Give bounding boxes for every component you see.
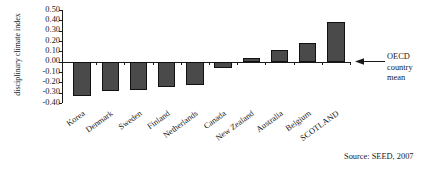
y-tick-label: -0.10 <box>26 68 60 76</box>
y-tick-mark <box>59 20 62 21</box>
x-tick-mark <box>96 62 97 65</box>
bar <box>271 50 288 61</box>
source-note: Source: SEED, 2007 <box>344 152 414 161</box>
y-axis-title: disciplinary climate index <box>13 5 22 105</box>
y-tick-label: -0.40 <box>26 99 60 107</box>
x-tick-mark <box>322 62 323 65</box>
y-tick-mark <box>59 103 62 104</box>
y-tick-mark <box>59 51 62 52</box>
plot-area <box>62 10 350 103</box>
x-tick-mark <box>294 62 295 65</box>
x-tick-mark <box>265 62 266 65</box>
bar <box>73 62 90 96</box>
y-tick-mark <box>59 93 62 94</box>
x-tick-mark <box>237 62 238 65</box>
y-tick-mark <box>59 62 62 63</box>
y-tick-label: 0.10 <box>26 47 60 55</box>
bar <box>102 62 119 91</box>
y-tick-mark <box>59 10 62 11</box>
x-tick-mark <box>124 62 125 65</box>
bar <box>158 62 175 88</box>
y-tick-label: 0.00 <box>26 57 60 65</box>
y-tick-mark <box>59 72 62 73</box>
bar <box>130 62 147 90</box>
y-tick-mark <box>59 82 62 83</box>
y-tick-label: 0.20 <box>26 37 60 45</box>
x-tick-mark <box>350 62 351 65</box>
bar <box>186 62 203 86</box>
oecd-country-mean-annotation: OECD country mean <box>387 52 413 84</box>
annotation-arrow-icon <box>355 58 386 65</box>
y-tick-label: 0.40 <box>26 16 60 24</box>
x-tick-mark <box>153 62 154 65</box>
y-tick-label: -0.30 <box>26 88 60 96</box>
annotation-line-2: country <box>387 63 413 74</box>
bar <box>299 43 316 62</box>
annotation-line-3: mean <box>387 73 413 84</box>
bar <box>327 22 344 61</box>
y-axis-line <box>62 10 63 103</box>
bar <box>214 62 231 68</box>
y-tick-mark <box>59 41 62 42</box>
y-tick-label: 0.30 <box>26 26 60 34</box>
bar <box>243 58 260 62</box>
annotation-line-1: OECD <box>387 52 413 63</box>
y-tick-mark <box>59 31 62 32</box>
x-tick-mark <box>181 62 182 65</box>
y-tick-label: -0.20 <box>26 78 60 86</box>
bar-chart-figure: disciplinary climate index 0.500.400.300… <box>0 0 444 180</box>
x-tick-mark <box>209 62 210 65</box>
y-tick-label: 0.50 <box>26 6 60 14</box>
